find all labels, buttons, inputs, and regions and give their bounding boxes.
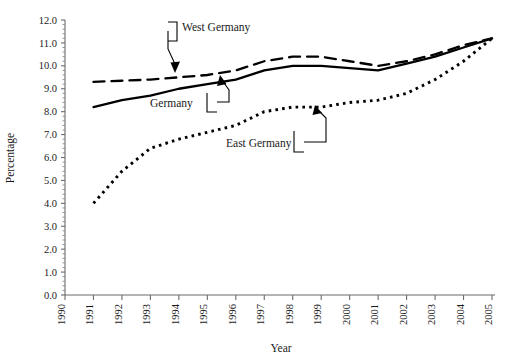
x-axis-tick-label: 1993 <box>141 304 152 325</box>
y-axis-tick-label: 8.0 <box>44 106 57 117</box>
y-axis-tick-label: 3.0 <box>44 221 57 232</box>
east-germany-bracket <box>294 131 304 152</box>
axis-lines <box>65 20 495 295</box>
series-line-west-germany <box>93 38 492 82</box>
west-germany-arrowhead <box>171 62 181 74</box>
y-axis-tick-label: 10.0 <box>39 60 57 71</box>
x-axis-tick-label: 2002 <box>398 304 409 325</box>
y-axis-tick-label: 6.0 <box>44 152 57 163</box>
data-series-group <box>93 38 492 203</box>
x-axis-tick-label: 1991 <box>84 304 95 325</box>
annotation-label-germany: Germany <box>150 97 193 110</box>
y-axis-tick-label: 2.0 <box>44 244 57 255</box>
x-axis-tick-label: 1999 <box>312 304 323 325</box>
y-axis-tick-label: 4.0 <box>44 198 57 209</box>
y-axis-title: Percentage <box>4 133 17 183</box>
x-axis-tick-label: 1996 <box>227 304 238 325</box>
series-line-east-germany <box>93 38 492 203</box>
annotation-label-west-germany: West Germany <box>182 21 251 34</box>
x-axis-tick-label: 1997 <box>255 304 266 325</box>
y-axis-tick-label: 7.0 <box>44 129 57 140</box>
x-axis-tick-label: 2000 <box>341 304 352 325</box>
germany-leader <box>217 83 229 102</box>
annotation-label-east-germany: East Germany <box>226 137 292 150</box>
x-axis-tick-label: 1990 <box>56 304 67 325</box>
line-chart-canvas: 0.01.02.03.04.05.06.07.08.09.010.011.012… <box>0 0 507 364</box>
west-germany-bracket <box>168 22 177 41</box>
west-germany-leader <box>168 31 175 64</box>
chart-figure: 0.01.02.03.04.05.06.07.08.09.010.011.012… <box>0 0 507 364</box>
x-axis-tick-labels: 1990199119921993199419951996199719981999… <box>56 303 494 325</box>
x-axis-major-ticks <box>65 295 492 300</box>
x-axis-tick-label: 1995 <box>198 304 209 325</box>
annotation-west-germany <box>168 22 180 73</box>
y-axis-tick-label: 1.0 <box>44 267 57 278</box>
x-axis-tick-label: 2001 <box>369 304 380 325</box>
y-axis-tick-label: 5.0 <box>44 175 57 186</box>
y-axis-tick-label: 0.0 <box>44 290 57 301</box>
y-axis-tick-labels: 0.01.02.03.04.05.06.07.08.09.010.011.012… <box>39 15 57 301</box>
x-axis-tick-label: 1994 <box>170 303 181 325</box>
x-axis-tick-label: 1998 <box>284 304 295 325</box>
y-axis-tick-label: 9.0 <box>44 83 57 94</box>
x-axis-tick-label: 2003 <box>426 304 437 325</box>
y-axis-tick-label: 11.0 <box>39 38 57 49</box>
x-axis-title: Year <box>270 342 291 354</box>
x-axis-tick-label: 2004 <box>455 303 466 325</box>
east-germany-leader <box>304 112 326 142</box>
y-axis-tick-label: 12.0 <box>39 15 57 26</box>
x-axis-tick-label: 1992 <box>113 304 124 325</box>
annotation-east-germany <box>294 105 326 152</box>
x-axis-tick-label: 2005 <box>483 304 494 325</box>
germany-bracket <box>207 93 217 112</box>
